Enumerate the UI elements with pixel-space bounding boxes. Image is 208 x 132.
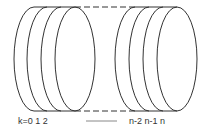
disk-arc-k1 [27, 7, 47, 111]
disk-right-front [157, 7, 197, 111]
disk-arc-k0 [14, 7, 34, 111]
disk-arc-n [143, 7, 163, 111]
disk-left-front [55, 7, 95, 111]
cylinder-disks-diagram: k=0 1 2 n-2 n-1 n [0, 0, 208, 132]
label-right: n-2 n-1 n [129, 116, 165, 126]
label-left: k=0 1 2 [18, 116, 48, 126]
disk-arc-n-1 [129, 7, 149, 111]
disk-arc-k2 [41, 7, 61, 111]
disk-arc-n-2 [115, 7, 135, 111]
